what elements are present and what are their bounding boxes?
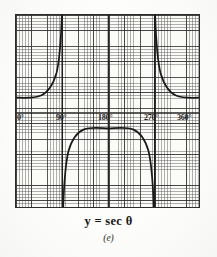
figure-caption: y = sec θ [0, 214, 217, 229]
x-tick-label-360: 360° [177, 113, 191, 122]
x-tick-label-270: 270° [144, 113, 158, 122]
x-tick-label-90: 90° [56, 113, 67, 122]
figure-index-label: (e) [0, 233, 217, 243]
graph-plot-area [15, 14, 200, 208]
secant-branch-270-360 [155, 15, 200, 98]
x-tick-label-0: 0° [17, 113, 24, 122]
figure-container: 0° 90° 180° 270° 360° y = sec θ (e) [0, 0, 217, 257]
x-tick-label-180: 180° [98, 113, 112, 122]
secant-branch-0-90 [16, 15, 62, 98]
graph-svg [16, 15, 200, 208]
